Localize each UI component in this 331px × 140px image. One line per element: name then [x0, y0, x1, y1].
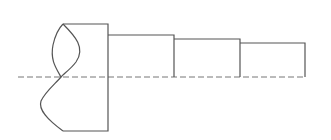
- shaft-step-2: [174, 39, 240, 77]
- break-line-upper-loop: [52, 24, 80, 77]
- shaft-drawing: [0, 0, 331, 140]
- shaft-step-3: [240, 43, 305, 77]
- shaft-step-1: [108, 35, 174, 77]
- shaft-diagram: [0, 0, 331, 140]
- break-line-lower-curve: [40, 77, 63, 131]
